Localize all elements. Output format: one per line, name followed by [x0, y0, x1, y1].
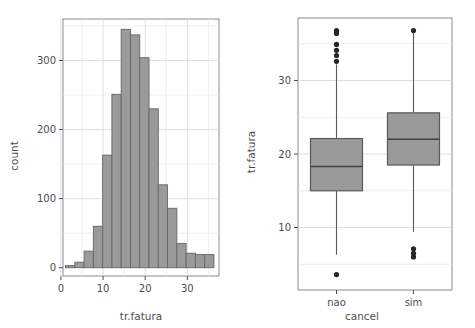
- histogram-bar: [168, 208, 177, 267]
- histogram-bar: [93, 226, 102, 267]
- histogram-bar: [130, 35, 139, 268]
- boxplot-svg: 102030naosim cancel tr.fatura: [240, 0, 475, 328]
- x-tick-label: 20: [139, 283, 152, 294]
- outlier-point: [411, 246, 416, 251]
- histogram-x-axis-label: tr.fatura: [120, 310, 162, 322]
- histogram-bar: [158, 185, 167, 268]
- figure-pair: 01002003000102030 tr.fatura count 102030…: [0, 0, 475, 328]
- y-tick-label: 0: [50, 262, 56, 273]
- outlier-point: [411, 28, 416, 33]
- x-tick-label: 0: [58, 283, 64, 294]
- histogram-bar: [75, 262, 84, 268]
- y-tick-label: 20: [278, 149, 291, 160]
- y-tick-label: 10: [278, 222, 291, 233]
- outlier-point: [334, 272, 339, 277]
- histogram-bar: [84, 251, 93, 268]
- histogram-y-axis-label: count: [8, 141, 20, 171]
- histogram-bar: [140, 58, 149, 268]
- x-tick-label-sim: sim: [405, 297, 423, 308]
- histogram-bar: [66, 266, 75, 268]
- x-tick-label-nao: nao: [327, 297, 346, 308]
- outlier-point: [334, 48, 339, 53]
- outlier-point: [334, 53, 339, 58]
- histogram-figure: 01002003000102030 tr.fatura count: [0, 0, 240, 328]
- histogram-bar: [103, 155, 112, 268]
- histogram-bar: [195, 255, 204, 268]
- boxplot-figure: 102030naosim cancel tr.fatura: [240, 0, 475, 328]
- histogram-bar: [112, 94, 121, 267]
- box: [311, 139, 363, 191]
- y-tick-label: 200: [37, 124, 56, 135]
- histogram-bar: [121, 29, 130, 267]
- x-tick-label: 10: [97, 283, 110, 294]
- outlier-point: [334, 59, 339, 64]
- boxplot-y-axis-label: tr.fatura: [245, 131, 257, 173]
- histogram-bar: [149, 109, 158, 268]
- histogram-bar: [177, 244, 186, 268]
- outlier-point: [334, 42, 339, 47]
- y-tick-label: 30: [278, 75, 291, 86]
- y-tick-label: 100: [37, 193, 56, 204]
- histogram-bar: [205, 255, 214, 268]
- boxplot-x-axis-label: cancel: [345, 310, 379, 322]
- x-tick-label: 30: [181, 283, 194, 294]
- histogram-svg: 01002003000102030 tr.fatura count: [0, 0, 240, 328]
- histogram-bar: [186, 253, 195, 268]
- y-tick-label: 300: [37, 55, 56, 66]
- outlier-point: [334, 28, 339, 33]
